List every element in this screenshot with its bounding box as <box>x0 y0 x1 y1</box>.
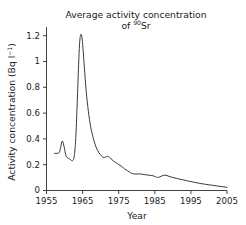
y-axis-label-prefix: Activity concentration (Bq l <box>6 56 17 181</box>
y-tick-label: 0.6 <box>26 108 40 118</box>
chart-title-line1: Average activity concentration <box>65 9 206 20</box>
chart-title-isotope-mass: 90 <box>133 19 141 26</box>
chart-figure: Average activity concentration of 90Sr A… <box>0 0 246 225</box>
y-tick-label: 0.4 <box>26 134 40 144</box>
x-tick-label: 2005 <box>216 196 238 206</box>
y-axis-label: Activity concentration (Bq l−1) <box>6 43 17 181</box>
y-tick-label: 1 <box>35 56 40 66</box>
chart-title-line2-prefix: of <box>121 20 133 31</box>
x-tick-label: 1975 <box>108 196 130 206</box>
x-tick-label: 1965 <box>72 196 94 206</box>
x-tick-label: 1995 <box>180 196 202 206</box>
y-tick-label: 0.2 <box>26 160 40 170</box>
y-axis-label-exponent: −1 <box>6 47 13 56</box>
y-tick-label: 0.8 <box>26 82 40 92</box>
y-tick-label: 0 <box>35 185 40 195</box>
y-axis-label-suffix: ) <box>6 43 17 47</box>
x-tick-label: 1985 <box>144 196 166 206</box>
y-tick-label: 1.2 <box>26 31 40 41</box>
chart-title-element: Sr <box>141 20 151 31</box>
line-chart: Average activity concentration of 90Sr A… <box>0 0 246 225</box>
x-tick-label: 1955 <box>36 196 58 206</box>
x-axis-label: Year <box>126 210 147 221</box>
